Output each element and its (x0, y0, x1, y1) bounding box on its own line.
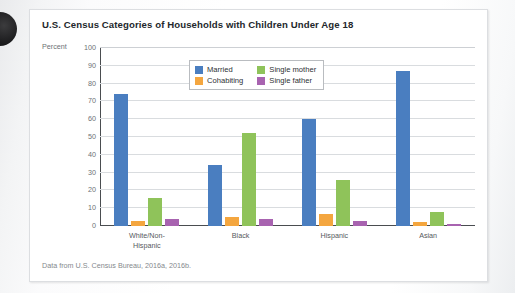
legend-swatch-cohabiting (195, 77, 203, 85)
y-axis-tick-label: 60 (88, 114, 96, 123)
bar-single-father[interactable] (259, 219, 273, 226)
bar-single-father[interactable] (447, 224, 461, 226)
legend-label-married: Married (207, 65, 233, 74)
legend-swatch-married (195, 66, 203, 74)
y-axis-label: Percent (42, 42, 67, 51)
y-axis-tick-label: 20 (88, 185, 96, 194)
bar-group: White/Non- Hispanic (100, 48, 194, 226)
legend-label-single-mother: Single mother (269, 65, 316, 74)
bar-cohabiting[interactable] (413, 222, 427, 226)
x-axis-tick-label: Hispanic (297, 231, 371, 241)
legend-swatch-single-mother (257, 66, 265, 74)
y-axis-tick-label: 30 (88, 167, 96, 176)
x-axis-tick-label: Asian (391, 231, 465, 241)
y-axis-tick-label: 10 (88, 203, 96, 212)
bar-cohabiting[interactable] (319, 214, 333, 226)
bar-cohabiting[interactable] (225, 217, 239, 226)
bar-single-mother[interactable] (242, 133, 256, 226)
bar-cohabiting[interactable] (131, 221, 145, 226)
y-axis-tick-label: 0 (92, 221, 96, 230)
legend-item-cohabiting: Cohabiting (195, 76, 243, 85)
legend-label-single-father: Single father (269, 76, 312, 85)
legend-item-single-mother: Single mother (257, 65, 316, 74)
chart-legend: Married Single mother Cohabiting Single … (189, 60, 324, 90)
legend-item-married: Married (195, 65, 243, 74)
source-note: Data from U.S. Census Bureau, 2016a, 201… (42, 261, 191, 270)
scanned-page: U.S. Census Categories of Households wit… (0, 0, 515, 293)
y-axis-tick-label: 80 (88, 78, 96, 87)
y-axis-tick-label: 50 (88, 132, 96, 141)
bar-single-mother[interactable] (148, 198, 162, 226)
legend-label-cohabiting: Cohabiting (207, 76, 243, 85)
bar-single-mother[interactable] (336, 180, 350, 226)
bar-single-father[interactable] (353, 221, 367, 226)
figure-title: U.S. Census Categories of Households wit… (42, 19, 353, 30)
legend-item-single-father: Single father (257, 76, 316, 85)
bar-married[interactable] (302, 119, 316, 226)
bar-chart: Percent 0102030405060708090100 White/Non… (42, 38, 477, 243)
bar-married[interactable] (396, 71, 410, 226)
y-axis-tick-label: 90 (88, 60, 96, 69)
figure-card: U.S. Census Categories of Households wit… (29, 9, 488, 282)
x-axis-tick-label: Black (204, 231, 278, 241)
bar-single-father[interactable] (165, 219, 179, 226)
bar-married[interactable] (208, 165, 222, 226)
x-axis-tick-label: White/Non- Hispanic (110, 231, 184, 250)
bar-group: Asian (381, 48, 475, 226)
y-axis-tick-label: 100 (84, 43, 96, 52)
y-axis-tick-label: 70 (88, 96, 96, 105)
y-axis-tick-label: 40 (88, 149, 96, 158)
bar-married[interactable] (114, 94, 128, 226)
bar-single-mother[interactable] (430, 212, 444, 226)
legend-swatch-single-father (257, 77, 265, 85)
